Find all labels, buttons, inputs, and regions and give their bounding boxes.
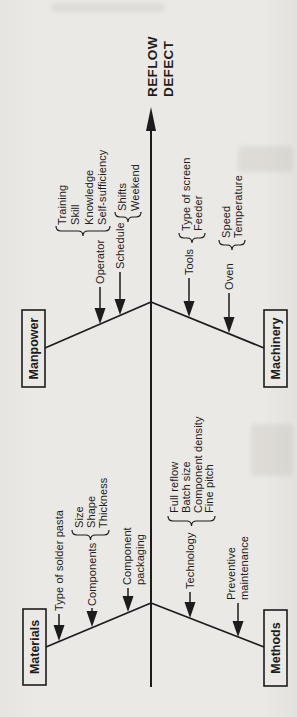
scanned-page: REFLOW DEFECT Manpower Operator Training… [0, 0, 297, 717]
effect-title-line2: DEFECT [161, 40, 176, 97]
components-item: Thickness [97, 477, 109, 528]
operator-item: Training [56, 185, 68, 225]
schedule-item: Weekend [129, 164, 141, 211]
operator-item: Self-sufficiency [96, 149, 108, 225]
preventive-maintenance-label-line1: Preventive [225, 547, 237, 600]
manpower-box-label: Manpower [27, 317, 41, 379]
components-label: Components [86, 542, 98, 606]
brace-icon [179, 233, 205, 243]
oven-item: Speed [220, 206, 232, 238]
schedule-arrowhead-icon [115, 299, 126, 315]
tools-item: Type of screen [180, 157, 192, 231]
component-packaging-arrowhead-icon [123, 596, 134, 612]
schedule-item: Shifts [116, 182, 128, 211]
components-arrowhead-icon [87, 611, 98, 627]
oven-item: Temperature [232, 175, 244, 238]
technology-item: Batch size [180, 461, 192, 513]
fishbone-canvas: REFLOW DEFECT Manpower Operator Training… [0, 0, 297, 717]
components-item: Size [73, 506, 85, 528]
materials-box-label: Materials [28, 620, 42, 674]
technology-item: Full reflow [168, 462, 180, 513]
operator-item: Knowledge [83, 170, 95, 225]
methods-box-label: Methods [269, 622, 283, 673]
schedule-label: Schedule [114, 222, 126, 269]
machinery-box-label: Machinery [269, 318, 283, 380]
operator-label: Operator [94, 240, 106, 284]
methods-rib [151, 603, 264, 647]
tools-arrowhead-icon [184, 301, 195, 317]
technology-arrowhead-icon [185, 602, 196, 618]
brace-icon [219, 240, 245, 250]
oven-label: Oven [223, 263, 235, 290]
brace-icon [72, 530, 109, 540]
effect-title-line1: REFLOW [145, 36, 160, 97]
brace-icon [115, 212, 141, 222]
solder-pasta-label: Type of solder pasta [53, 509, 65, 611]
machinery-rib [151, 302, 264, 348]
brace-icon [56, 226, 110, 236]
fishbone-diagram: REFLOW DEFECT Manpower Operator Training… [0, 0, 297, 717]
spine-arrowhead-icon [146, 107, 156, 131]
component-packaging-label-line1: Component [121, 527, 133, 585]
brace-icon [168, 516, 215, 526]
technology-label: Technology [184, 532, 196, 589]
preventive-maintenance-label-line2: maintenance [238, 536, 250, 600]
tools-label: Tools [183, 248, 195, 275]
components-item: Shape [85, 496, 97, 528]
solder-pasta-arrowhead-icon [54, 625, 65, 641]
operator-item: Skill [69, 204, 81, 225]
component-packaging-label-line2: packaging [134, 534, 146, 585]
oven-arrowhead-icon [224, 317, 235, 333]
tools-item: Feeder [192, 195, 204, 231]
technology-item: Fine pitch [203, 464, 215, 513]
